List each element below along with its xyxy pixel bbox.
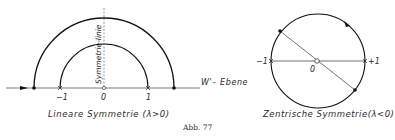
- lower-right-point: [353, 88, 357, 92]
- arrow-right-icon: [20, 86, 28, 90]
- tick-label-minus-one-right: −1: [256, 57, 268, 66]
- tick-label-one: 1: [146, 93, 151, 102]
- outer-arc: [34, 18, 174, 88]
- left-diagram: −1 0 1 Symmetrie-linie Lineare Symmetrie…: [6, 8, 248, 119]
- origin-marker: [102, 86, 105, 89]
- direction-arrow-icon: [344, 21, 350, 27]
- tick-label-minus-one: −1: [56, 93, 68, 102]
- center-marker: [315, 59, 320, 64]
- outer-left-point: [32, 86, 36, 90]
- upper-left-point: [278, 29, 282, 33]
- figure-caption: Abb. 77: [182, 123, 213, 132]
- tick-label-plus-one-right: +1: [368, 57, 380, 66]
- right-diagram: −1 0 +1 Zentrische Symmetrie(λ<0): [256, 14, 394, 119]
- outer-right-point: [172, 86, 176, 90]
- figure-canvas: −1 0 1 Symmetrie-linie Lineare Symmetrie…: [0, 0, 395, 140]
- plane-label: W'– Ebene: [201, 78, 248, 87]
- right-diagram-title: Zentrische Symmetrie(λ<0): [262, 109, 394, 119]
- symmetry-line-label: Symmetrie-linie: [94, 24, 103, 84]
- tick-label-zero: 0: [101, 93, 106, 102]
- left-diagram-title: Lineare Symmetrie (λ>0): [48, 109, 170, 119]
- tick-label-zero-right: 0: [310, 65, 315, 74]
